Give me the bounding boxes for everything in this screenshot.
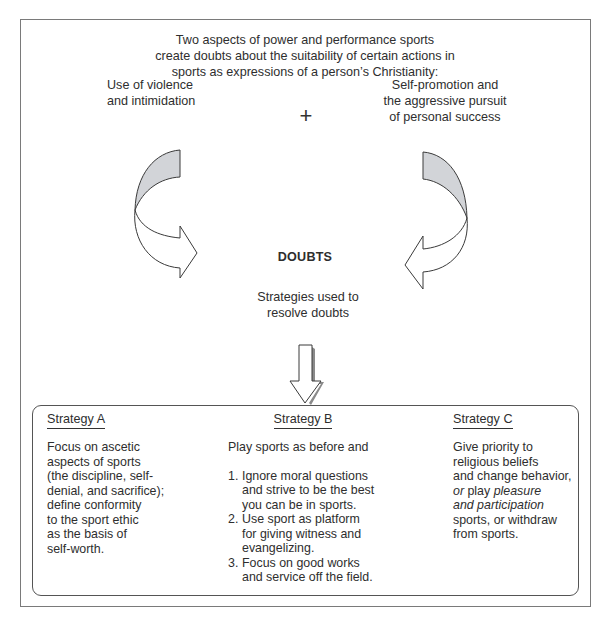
list-number: 1. (228, 469, 238, 484)
strategy-a-title: Strategy A (47, 412, 105, 429)
strategies-label: Strategies used to resolve doubts (228, 289, 388, 321)
list-number: 2. (228, 512, 238, 527)
list-line: for giving witness and (242, 527, 403, 542)
list-line: and strive to be the best (242, 483, 403, 498)
list-item: 3. Focus on good works and service off t… (228, 556, 403, 585)
list-line: and service off the field. (242, 570, 403, 585)
body-line: define conformity (47, 498, 197, 513)
strategy-b-list: 1. Ignore moral questions and strive to … (228, 469, 403, 585)
strategy-c-body: Give priority to religious beliefs and c… (453, 440, 578, 542)
emphasis-text: pleasure (494, 484, 542, 498)
body-line: from sports. (453, 527, 578, 542)
body-line: religious beliefs (453, 455, 578, 470)
emphasis-text: and participation (453, 498, 544, 512)
strategy-c: Strategy C Give priority to religious be… (453, 412, 578, 542)
body-line: and change behavior, (453, 469, 578, 484)
body-line: Focus on ascetic (47, 440, 197, 455)
body-line: or play pleasure (453, 484, 578, 499)
plain-text: play (464, 484, 494, 498)
strategy-a: Strategy A Focus on ascetic aspects of s… (47, 412, 197, 556)
list-line: Ignore moral questions (242, 469, 403, 484)
body-line: self-worth. (47, 542, 197, 557)
emphasis-text: or (453, 484, 464, 498)
body-line: to the sport ethic (47, 513, 197, 528)
strategy-c-title: Strategy C (453, 412, 513, 429)
list-line: Focus on good works (242, 556, 403, 571)
strategy-b-intro: Play sports as before and (228, 440, 403, 455)
body-line: denial, and sacrifice); (47, 484, 197, 499)
list-line: evangelizing. (242, 541, 403, 556)
body-line: (the discipline, self- (47, 469, 197, 484)
list-number: 3. (228, 556, 238, 571)
strategy-a-body: Focus on ascetic aspects of sports (the … (47, 440, 197, 556)
list-line: Use sport as platform (242, 512, 403, 527)
body-line: as the basis of (47, 527, 197, 542)
down-arrow-icon (290, 345, 324, 405)
strategies-label-line: Strategies used to (228, 289, 388, 305)
strategy-b-title: Strategy B (274, 412, 333, 429)
body-line: aspects of sports (47, 455, 197, 470)
list-line: you can be in sports. (242, 498, 403, 513)
list-item: 2. Use sport as platform for giving witn… (228, 512, 403, 556)
strategy-b-title-wrap: Strategy B (228, 412, 378, 429)
body-line: and participation (453, 498, 578, 513)
strategies-label-line: resolve doubts (228, 305, 388, 321)
list-item: 1. Ignore moral questions and strive to … (228, 469, 403, 513)
doubts-label: DOUBTS (260, 250, 350, 264)
curved-arrow-left-icon (135, 150, 197, 278)
body-line: Give priority to (453, 440, 578, 455)
strategy-b: Strategy B Play sports as before and 1. … (228, 412, 403, 585)
curved-arrow-right-icon (405, 152, 467, 289)
body-line: sports, or withdraw (453, 513, 578, 528)
